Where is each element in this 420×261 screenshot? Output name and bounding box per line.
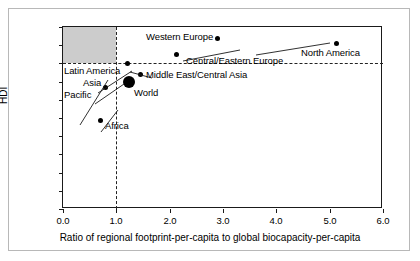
data-point-asia-pacific[interactable]	[103, 85, 108, 90]
data-point-western-europe[interactable]	[215, 36, 220, 41]
x-tick-label: 2.0	[150, 216, 190, 225]
point-label-latin-america: Latin America	[64, 65, 120, 76]
data-point-africa[interactable]	[98, 118, 103, 123]
point-label-western-europe: Western Europe	[146, 31, 213, 42]
y-tick-mark	[59, 82, 63, 83]
point-label-north-america: North America	[301, 47, 360, 58]
y-tick-mark	[59, 191, 63, 192]
x-tick-mark	[63, 209, 64, 213]
x-tick-label: 0.0	[43, 216, 83, 225]
x-tick-mark	[223, 209, 224, 213]
data-point-latin-america[interactable]	[125, 61, 130, 66]
x-tick-label: 3.0	[203, 216, 243, 225]
vertical-reference-line	[116, 27, 117, 209]
x-tick-mark	[276, 209, 277, 213]
point-label-world: World	[134, 87, 158, 98]
point-label-asia: Asia	[83, 77, 101, 88]
data-point-middle-east-central-asia[interactable]	[138, 72, 143, 77]
y-tick-mark	[59, 27, 63, 28]
y-tick-mark	[59, 173, 63, 174]
x-tick-label: 4.0	[256, 216, 296, 225]
x-tick-label: 5.0	[310, 216, 350, 225]
y-axis-label: HDI	[0, 87, 9, 104]
shaded-sustainable-quadrant	[63, 27, 116, 63]
y-tick-mark	[59, 100, 63, 101]
point-label-pacific: Pacific	[64, 89, 91, 100]
point-label-central-eastern-europe: Central/Eastern Europe	[186, 55, 283, 66]
x-tick-label: 6.0	[363, 216, 403, 225]
y-tick-mark	[59, 63, 63, 64]
y-tick-mark	[59, 45, 63, 46]
y-tick-mark	[59, 154, 63, 155]
y-tick-mark	[59, 136, 63, 137]
x-tick-mark	[116, 209, 117, 213]
y-tick-mark	[59, 118, 63, 119]
x-tick-label: 1.0	[96, 216, 136, 225]
point-label-africa: Africa	[105, 120, 129, 131]
chart-page: HDI Ratio of regional footprint-per-capi…	[0, 0, 420, 261]
x-tick-mark	[330, 209, 331, 213]
x-axis-label: Ratio of regional footprint-per-capita t…	[0, 232, 420, 243]
x-tick-mark	[170, 209, 171, 213]
data-point-central-eastern-europe[interactable]	[174, 52, 179, 57]
point-label-middle-east-central-asia: Middle East/Central Asia	[146, 69, 247, 80]
data-point-north-america[interactable]	[334, 41, 339, 46]
x-tick-mark	[383, 209, 384, 213]
